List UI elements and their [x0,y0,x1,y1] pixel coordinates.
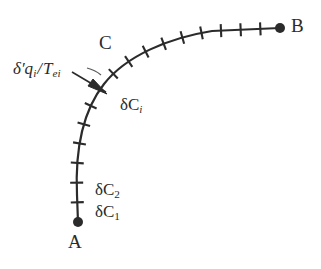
endpoint-marker-a [73,217,83,227]
segment-1-subscript: 1 [114,210,120,222]
label-point-a: A [68,232,82,251]
segment-i-subscript: i [139,103,142,115]
label-segment-delta-c-2: δC2 [95,181,120,198]
heat-flux-numerator: δ′q [13,59,33,78]
segment-2-subscript: 2 [114,188,120,200]
label-segment-delta-c-i: δCi [120,96,142,113]
segment-i-base: δC [120,95,139,114]
segment-tick [125,56,132,67]
segment-1-base: δC [95,202,114,221]
endpoint-marker-b [275,23,285,33]
heat-flux-denominator-subscript: ei [52,67,60,79]
segment-tick [200,27,203,40]
thermodynamic-path-figure: A B C δCi δC2 δC1 δ′qi/Tei [0,0,321,269]
label-segment-delta-c-1: δC1 [95,203,120,220]
label-curve-c: C [99,33,112,52]
label-heat-flux-ratio: δ′qi/Tei [13,60,61,77]
diagram-canvas [0,0,321,269]
segment-tick [260,22,261,35]
label-point-b: B [291,16,304,35]
segment-tick [221,24,222,37]
segment-tick [240,23,241,36]
segment-tick [73,142,86,144]
segment-tick [71,163,84,164]
segment-2-base: δC [95,180,114,199]
heat-flux-divider: / [36,59,43,78]
label-leader-line [87,68,101,75]
